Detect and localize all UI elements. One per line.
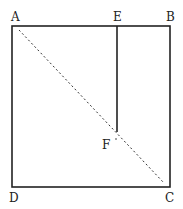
label-f: F	[102, 138, 110, 152]
diagonal-ac	[19, 30, 164, 183]
label-d: D	[9, 191, 19, 205]
label-a: A	[10, 10, 20, 24]
label-c: C	[165, 191, 174, 205]
label-b: B	[166, 10, 175, 24]
point-f-dot	[115, 138, 117, 140]
label-e: E	[113, 10, 122, 24]
geometry-diagram: A E B F D C	[0, 0, 183, 209]
